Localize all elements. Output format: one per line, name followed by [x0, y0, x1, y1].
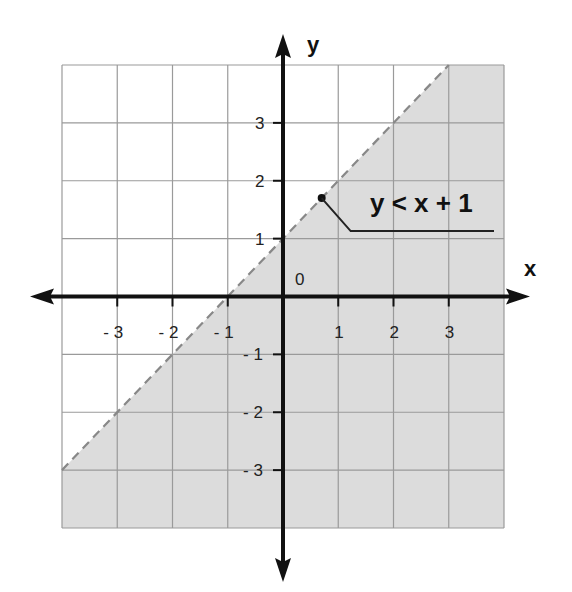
y-tick-label: - 1	[243, 345, 263, 364]
x-axis-label: x	[524, 256, 537, 281]
x-tick-label: 1	[334, 323, 343, 342]
y-tick-label: 1	[255, 230, 264, 249]
origin-label: 0	[295, 270, 304, 289]
y-tick-label: - 2	[243, 403, 263, 422]
y-tick-label: 3	[255, 114, 264, 133]
y-tick-label: 2	[255, 172, 264, 191]
inequality-label: y < x + 1	[370, 188, 473, 218]
inequality-graph: yx - 3- 2- 1123321- 1- 2- 30 y < x + 1	[0, 0, 572, 592]
y-axis-label: y	[307, 32, 320, 57]
x-tick-label: 3	[445, 323, 454, 342]
x-tick-label: - 1	[214, 323, 234, 342]
x-tick-label: - 2	[159, 323, 179, 342]
y-tick-label: - 3	[243, 461, 263, 480]
x-tick-label: 2	[390, 323, 399, 342]
x-tick-label: - 3	[103, 323, 123, 342]
